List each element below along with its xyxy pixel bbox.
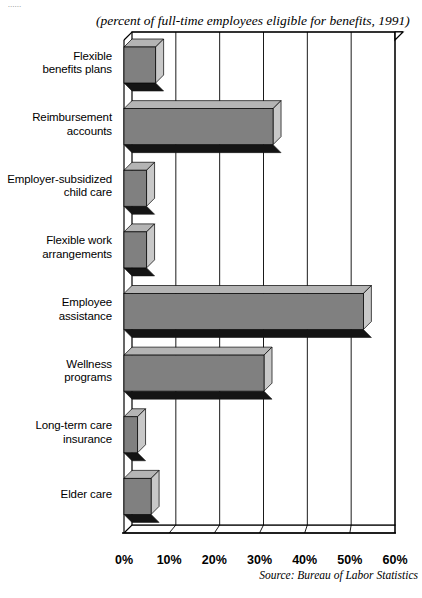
bar-side-face: [273, 101, 281, 145]
bar-side-face: [147, 162, 155, 206]
category-label-line: Flexible work: [0, 234, 112, 248]
category-label: Elder care: [0, 488, 112, 502]
tick-label: 30%: [240, 553, 280, 567]
bar-front-face: [124, 417, 138, 453]
category-label: Flexible workarrangements: [0, 234, 112, 261]
category-label: Employeeassistance: [0, 296, 112, 323]
bar-top-face: [124, 286, 371, 294]
category-label: Long-term careinsurance: [0, 419, 112, 446]
floor-plane: [124, 525, 395, 533]
bar-side-face: [264, 347, 272, 391]
bar-front-face: [124, 170, 147, 206]
bar-side-face: [156, 39, 164, 83]
bar-front-face: [124, 232, 147, 268]
tick-label: 50%: [330, 553, 370, 567]
category-label-line: child care: [0, 186, 112, 200]
source-note: Source: Bureau of Labor Statistics: [259, 568, 418, 582]
category-label-line: Employee: [0, 296, 112, 310]
category-label-line: benefits plans: [0, 63, 112, 77]
category-label-line: Long-term care: [0, 419, 112, 433]
category-label-line: arrangements: [0, 248, 112, 262]
bar-side-face: [363, 286, 371, 330]
top-right-wedge: [395, 32, 403, 40]
bar-chart: ...... (percent of full-time employees e…: [0, 0, 422, 598]
category-label-line: Flexible: [0, 50, 112, 64]
bar-side-face: [147, 224, 155, 268]
bar-front-face: [124, 294, 363, 330]
category-label: Wellnessprograms: [0, 358, 112, 385]
bar: [124, 286, 371, 338]
bar-top-face: [124, 101, 281, 109]
bar-side-face: [151, 470, 159, 514]
tick-label: 0%: [104, 553, 144, 567]
tick-label: 40%: [285, 553, 325, 567]
category-label: Reimbursementaccounts: [0, 111, 112, 138]
category-label: Flexiblebenefits plans: [0, 50, 112, 77]
tick-label: 10%: [149, 553, 189, 567]
category-label-line: Reimbursement: [0, 111, 112, 125]
bar: [124, 101, 281, 153]
category-label: Employer-subsidizedchild care: [0, 173, 112, 200]
category-label-line: accounts: [0, 125, 112, 139]
bar-shadow: [124, 145, 281, 153]
bar-shadow: [124, 330, 371, 338]
bar-front-face: [124, 47, 156, 83]
category-label-line: Employer-subsidized: [0, 173, 112, 187]
category-label-line: assistance: [0, 310, 112, 324]
bar-front-face: [124, 109, 273, 145]
tick-label: 20%: [194, 553, 234, 567]
bar-front-face: [124, 355, 264, 391]
bar-top-face: [124, 347, 272, 355]
category-label-line: insurance: [0, 433, 112, 447]
bar: [124, 347, 272, 399]
bar-front-face: [124, 478, 151, 514]
category-label-line: Wellness: [0, 358, 112, 372]
category-label-line: programs: [0, 371, 112, 385]
tick-label: 60%: [375, 553, 415, 567]
category-label-line: Elder care: [0, 488, 112, 502]
bar-side-face: [138, 409, 146, 453]
bar-shadow: [124, 391, 272, 399]
